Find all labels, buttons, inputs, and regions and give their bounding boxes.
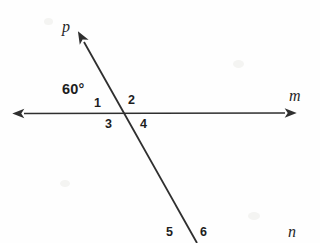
line-m-stroke	[24, 113, 285, 114]
angle-label-6: 6	[200, 226, 207, 239]
geometry-diagram-figure: p m n 60° 1 2 3 4 5 6	[0, 0, 320, 243]
angle-label-2: 2	[128, 94, 135, 107]
angle-label-5: 5	[166, 226, 173, 239]
line-label-p: p	[62, 19, 70, 35]
angle-measure-60-label: 60°	[62, 82, 85, 97]
angle-label-4: 4	[140, 118, 147, 131]
diagram-canvas	[0, 0, 320, 243]
line-label-m: m	[289, 88, 301, 104]
line-p-n-stroke	[84, 42, 197, 243]
angle-label-1: 1	[94, 97, 101, 110]
line-label-n: n	[288, 224, 296, 240]
angle-label-3: 3	[105, 118, 112, 131]
